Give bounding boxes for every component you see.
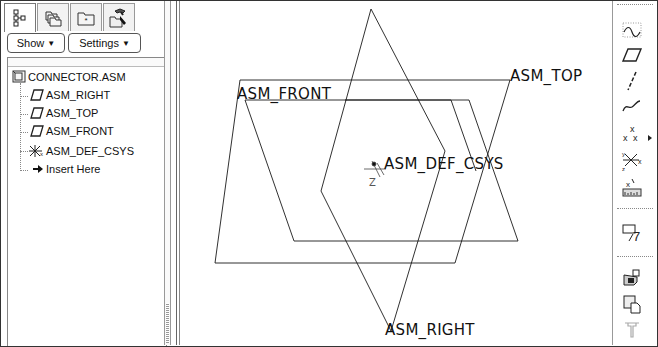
datum-point-tool-icon: x x x [621, 123, 643, 145]
model-tree-icon [12, 9, 28, 27]
flyout-arrow-icon[interactable] [648, 135, 652, 141]
svg-text:z: z [622, 166, 625, 172]
tree-connector-line [20, 96, 28, 97]
tree-item-label: ASM_DEF_CSYS [46, 145, 134, 157]
toolbar-separator [617, 256, 653, 257]
model-tree-header [8, 58, 166, 67]
datum-curve-tool-icon [621, 97, 643, 115]
tree-item-asm-right[interactable]: ASM_RIGHT [30, 89, 110, 101]
coordinate-system-icon: x [28, 144, 44, 158]
datum-display-button[interactable] [619, 19, 645, 41]
tree-item-asm-front[interactable]: ASM_FRONT [30, 125, 114, 137]
toolbar-separator [617, 208, 653, 209]
navigator-panel: * Show ▼ Settings ▼ [1, 1, 173, 345]
z-axis-label: Z [369, 177, 376, 188]
csys-glyph [364, 161, 386, 177]
tree-item-connector-asm[interactable]: CONNECTOR.ASM [12, 70, 126, 83]
favorites-tab[interactable]: * [70, 3, 102, 31]
tree-connector-line [20, 170, 28, 171]
datum-axis-tool-button[interactable] [619, 70, 645, 92]
coordinate-system-tool-icon: y z x [621, 150, 643, 172]
connector-tool-button[interactable] [619, 319, 645, 341]
svg-text:x: x [626, 180, 630, 189]
datum-axis-tool-icon [622, 70, 642, 92]
datum-plane-tool-button[interactable] [619, 44, 645, 66]
package-component-button[interactable] [619, 293, 645, 315]
model-tree-tab[interactable] [4, 3, 36, 32]
create-component-button[interactable] [619, 267, 645, 289]
create-component-icon [621, 267, 643, 289]
tree-connector-line [20, 132, 28, 133]
tree-item-label: ASM_RIGHT [46, 89, 110, 101]
tree-connector-line [20, 114, 28, 115]
folder-browser-tab[interactable] [37, 3, 69, 31]
tree-item-label: ASM_FRONT [46, 125, 114, 137]
toolbar-separator [617, 4, 653, 5]
graphics-window[interactable]: ASM_FRONT ASM_TOP ASM_RIGHT ASM_DEF_CSYS… [183, 1, 611, 345]
show-label: Show [17, 37, 45, 49]
package-component-icon [621, 293, 643, 315]
caret-down-icon: ▼ [47, 39, 55, 48]
datum-toolbar: x x x y z x x 7 [612, 1, 657, 345]
show-dropdown[interactable]: Show ▼ [7, 33, 65, 53]
datum-plane-icon [30, 107, 44, 119]
svg-text:7: 7 [633, 229, 640, 243]
datum-planes-drawing [183, 1, 611, 345]
connector-tool-icon [621, 319, 643, 341]
settings-dropdown[interactable]: Settings ▼ [68, 33, 141, 53]
tree-item-asm-top[interactable]: ASM_TOP [30, 107, 98, 119]
datum-plane-icon [30, 89, 44, 101]
datum-display-icon [621, 21, 643, 39]
svg-text:x: x [40, 151, 43, 157]
tree-item-label: Insert Here [46, 163, 100, 175]
tree-item-label: ASM_TOP [46, 107, 98, 119]
navigator-splitter[interactable] [164, 1, 171, 345]
tree-item-asm-def-csys[interactable]: x ASM_DEF_CSYS [28, 144, 134, 158]
splitter-grip[interactable] [166, 303, 169, 343]
insert-arrow-icon [32, 164, 44, 174]
caret-down-icon: ▼ [122, 39, 130, 48]
asm-top-label[interactable]: ASM_TOP [510, 67, 582, 85]
navigator-buttons: Show ▼ Settings ▼ [7, 33, 141, 53]
svg-text:y: y [622, 151, 625, 157]
assemble-component-icon: 7 [621, 221, 643, 243]
svg-text:*: * [84, 16, 87, 25]
tree-item-label: CONNECTOR.ASM [28, 71, 126, 83]
svg-text:x: x [633, 133, 638, 143]
analysis-feature-button[interactable]: x [619, 177, 645, 199]
folders-icon [44, 9, 62, 27]
tree-connector-line [20, 151, 28, 152]
tree-item-insert-here[interactable]: Insert Here [32, 163, 100, 175]
svg-text:x: x [638, 158, 642, 165]
assembly-icon [12, 70, 26, 83]
datum-point-tool-button[interactable]: x x x [619, 123, 645, 145]
datum-plane-tool-icon [621, 47, 643, 63]
settings-label: Settings [79, 37, 119, 49]
connections-tab[interactable] [103, 3, 135, 31]
asm-front-label[interactable]: ASM_FRONT [237, 85, 331, 103]
datum-plane-icon [30, 125, 44, 137]
tools-folder-icon [109, 8, 129, 28]
asm-right-label[interactable]: ASM_RIGHT [385, 321, 475, 339]
assemble-component-button[interactable]: 7 [619, 221, 645, 243]
model-tree: CONNECTOR.ASM ASM_RIGHT ASM_TOP ASM_FRON… [7, 57, 167, 346]
analysis-feature-icon: x [621, 177, 643, 199]
datum-curve-tool-button[interactable] [619, 95, 645, 117]
favorites-folder-icon: * [77, 10, 95, 26]
navigator-tabs: * [4, 3, 136, 31]
svg-text:x: x [623, 133, 628, 143]
asm-def-csys-label[interactable]: ASM_DEF_CSYS [384, 155, 504, 173]
coordinate-system-tool-button[interactable]: y z x [619, 150, 645, 172]
